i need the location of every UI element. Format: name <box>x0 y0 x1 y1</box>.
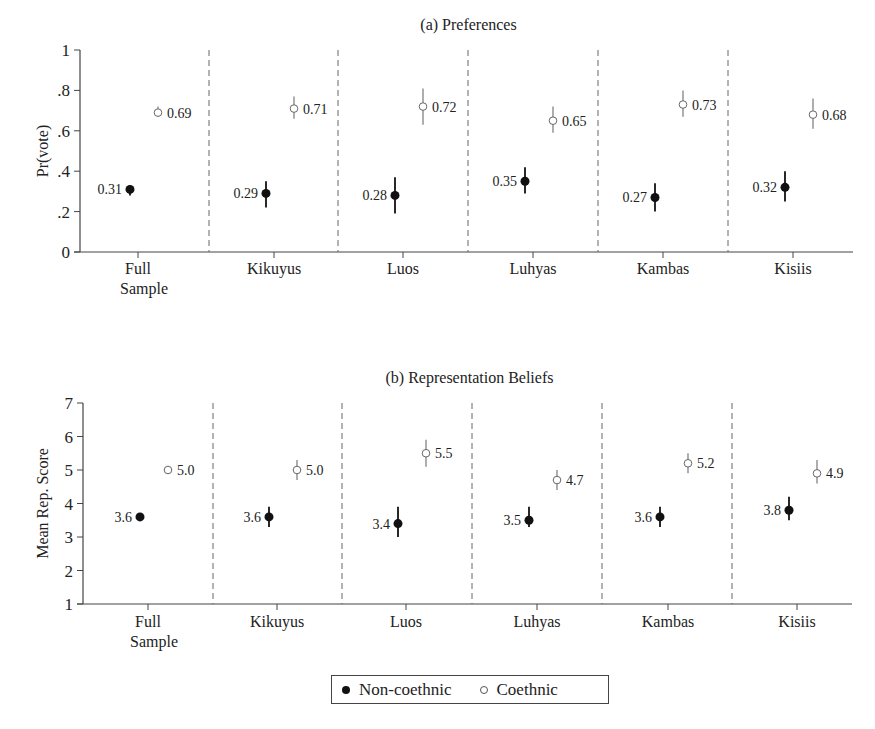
data-label: 0.68 <box>822 108 847 123</box>
data-label: 3.5 <box>504 513 522 528</box>
category-label: Kisiis <box>778 613 815 630</box>
filled-circle-marker <box>136 512 145 521</box>
coethnic-point: 0.73 <box>679 90 716 116</box>
filled-circle-marker <box>394 519 403 528</box>
y-tick-label: 1 <box>65 595 74 614</box>
panel-preferences: (a) Preferences0.2.4.6.81Pr(vote)FullSam… <box>34 16 853 298</box>
chart-title: (b) Representation Beliefs <box>386 369 554 387</box>
data-label: 3.8 <box>764 503 782 518</box>
category-label: Kisiis <box>774 260 811 277</box>
open-circle-marker <box>290 105 298 113</box>
filled-circle-marker <box>781 183 790 192</box>
chart-title: (a) Preferences <box>420 16 516 34</box>
open-circle-marker <box>293 466 301 474</box>
legend-label: Non-coethnic <box>359 680 452 700</box>
non-coethnic-point: 0.32 <box>753 171 790 201</box>
legend: Non-coethnic Coethnic <box>331 675 609 704</box>
open-circle-marker <box>679 101 687 109</box>
data-label: 4.7 <box>566 473 584 488</box>
open-circle-marker <box>164 466 172 474</box>
non-coethnic-point: 0.35 <box>493 167 530 193</box>
category-label: Full <box>135 613 161 630</box>
non-coethnic-point: 0.31 <box>98 182 135 197</box>
category-label: Luos <box>390 613 422 630</box>
filled-circle-marker <box>656 512 665 521</box>
data-label: 3.6 <box>635 510 653 525</box>
open-circle-marker <box>553 476 561 484</box>
data-label: 0.27 <box>623 190 648 205</box>
coethnic-point: 0.71 <box>290 96 327 118</box>
y-tick-label: 2 <box>65 562 74 581</box>
coethnic-point: 0.69 <box>154 106 191 121</box>
y-tick-label: .8 <box>57 81 70 100</box>
data-label: 0.28 <box>363 188 388 203</box>
data-label: 0.32 <box>753 180 778 195</box>
legend-item-non-coethnic: Non-coethnic <box>342 680 452 700</box>
filled-circle-marker <box>262 189 271 198</box>
open-circle-icon <box>480 686 488 694</box>
open-circle-marker <box>809 111 817 119</box>
data-label: 0.65 <box>562 114 587 129</box>
coethnic-point: 4.9 <box>813 460 843 483</box>
non-coethnic-point: 0.27 <box>623 183 660 211</box>
non-coethnic-point: 0.29 <box>234 181 271 207</box>
coethnic-point: 0.65 <box>549 107 586 133</box>
filled-circle-marker <box>521 177 530 186</box>
category-label: Sample <box>120 280 168 298</box>
non-coethnic-point: 3.6 <box>244 507 274 527</box>
figure: (a) Preferences0.2.4.6.81Pr(vote)FullSam… <box>0 0 875 729</box>
y-tick-label: 3 <box>65 528 74 547</box>
open-circle-marker <box>549 117 557 125</box>
y-tick-label: 6 <box>65 428 74 447</box>
category-label: Luhyas <box>513 613 560 631</box>
coethnic-point: 5.2 <box>684 453 714 473</box>
open-circle-marker <box>422 449 430 457</box>
non-coethnic-point: 0.28 <box>363 177 400 213</box>
category-label: Luos <box>387 260 419 277</box>
y-tick-label: .2 <box>57 203 70 222</box>
y-tick-label: 1 <box>62 41 71 60</box>
open-circle-marker <box>684 460 692 468</box>
category-label: Kikuyus <box>250 613 304 631</box>
y-axis-label: Pr(vote) <box>34 125 52 177</box>
y-axis-label: Mean Rep. Score <box>34 448 52 559</box>
y-tick-label: 7 <box>65 394 74 413</box>
legend-label: Coethnic <box>497 680 558 700</box>
data-label: 0.29 <box>234 186 259 201</box>
data-label: 0.72 <box>432 100 457 115</box>
coethnic-point: 5.0 <box>164 463 194 478</box>
open-circle-marker <box>419 103 427 111</box>
data-label: 0.71 <box>303 102 328 117</box>
non-coethnic-point: 3.6 <box>115 510 145 525</box>
data-label: 0.35 <box>493 174 518 189</box>
data-label: 5.0 <box>306 463 324 478</box>
non-coethnic-point: 3.4 <box>373 507 403 537</box>
coethnic-point: 5.5 <box>422 440 452 467</box>
coethnic-point: 0.68 <box>809 98 846 128</box>
non-coethnic-point: 3.8 <box>764 497 794 520</box>
data-label: 3.6 <box>244 510 262 525</box>
data-label: 0.73 <box>692 98 717 113</box>
y-tick-label: .4 <box>57 162 70 181</box>
panel-representation-beliefs: (b) Representation Beliefs1234567Mean Re… <box>34 369 852 651</box>
category-label: Luhyas <box>509 260 556 278</box>
coethnic-point: 0.72 <box>419 88 456 124</box>
filled-circle-marker <box>126 185 135 194</box>
filled-circle-marker <box>525 516 534 525</box>
data-label: 4.9 <box>826 466 844 481</box>
data-label: 3.6 <box>115 510 133 525</box>
filled-circle-icon <box>342 686 350 694</box>
data-label: 0.69 <box>167 106 192 121</box>
data-label: 5.2 <box>697 456 715 471</box>
y-tick-label: 4 <box>65 495 74 514</box>
data-label: 0.31 <box>98 182 123 197</box>
open-circle-marker <box>154 109 162 117</box>
non-coethnic-point: 3.5 <box>504 507 534 528</box>
category-label: Full <box>125 260 151 277</box>
filled-circle-marker <box>265 512 274 521</box>
filled-circle-marker <box>651 193 660 202</box>
category-label: Kikuyus <box>247 260 301 278</box>
coethnic-point: 4.7 <box>553 470 583 490</box>
data-label: 5.5 <box>435 446 453 461</box>
y-tick-label: 0 <box>62 243 71 262</box>
